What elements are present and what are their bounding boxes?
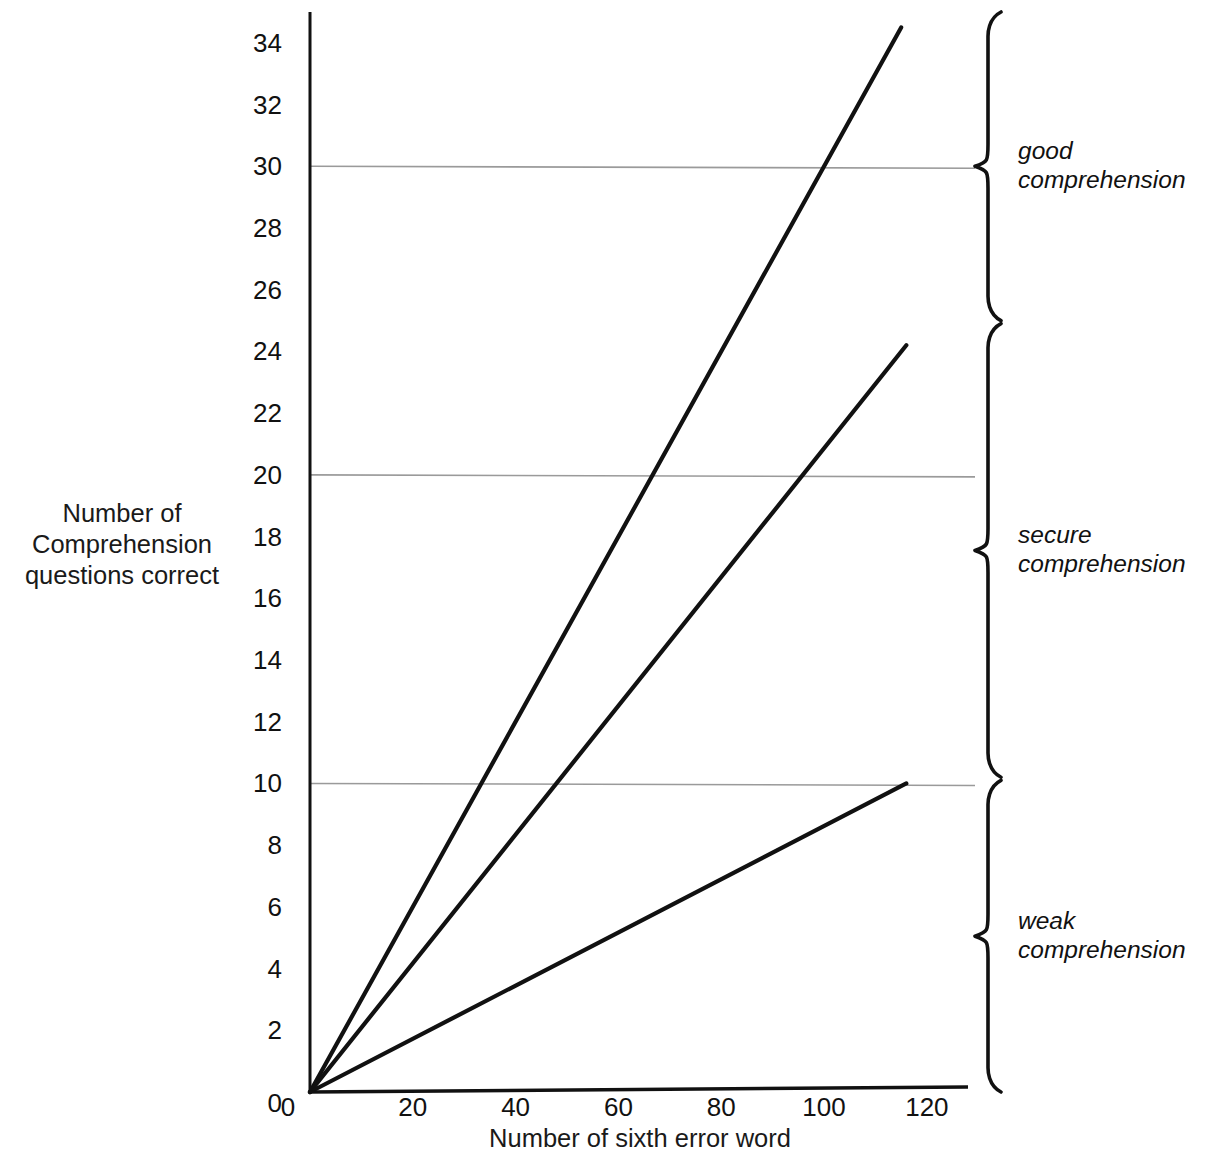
axis-lines xyxy=(310,12,968,1092)
band-label-good: good comprehension xyxy=(1018,136,1186,194)
band-braces xyxy=(975,12,1001,1092)
series-line-2 xyxy=(310,783,906,1092)
band-label-secure: secure comprehension xyxy=(1018,520,1186,578)
chart-figure: Number of Comprehension questions correc… xyxy=(0,0,1220,1169)
brace-good xyxy=(975,12,1001,321)
x-axis-line xyxy=(310,1087,968,1092)
gridline-y-10 xyxy=(310,783,975,785)
data-series-lines xyxy=(310,27,906,1092)
gridline-y-30 xyxy=(310,166,975,168)
gridlines xyxy=(310,166,975,785)
series-line-0 xyxy=(310,27,901,1092)
brace-weak xyxy=(975,780,1001,1092)
brace-secure xyxy=(975,324,1001,778)
gridline-y-20 xyxy=(310,475,975,477)
band-label-weak: weak comprehension xyxy=(1018,906,1186,964)
series-line-1 xyxy=(310,345,906,1092)
